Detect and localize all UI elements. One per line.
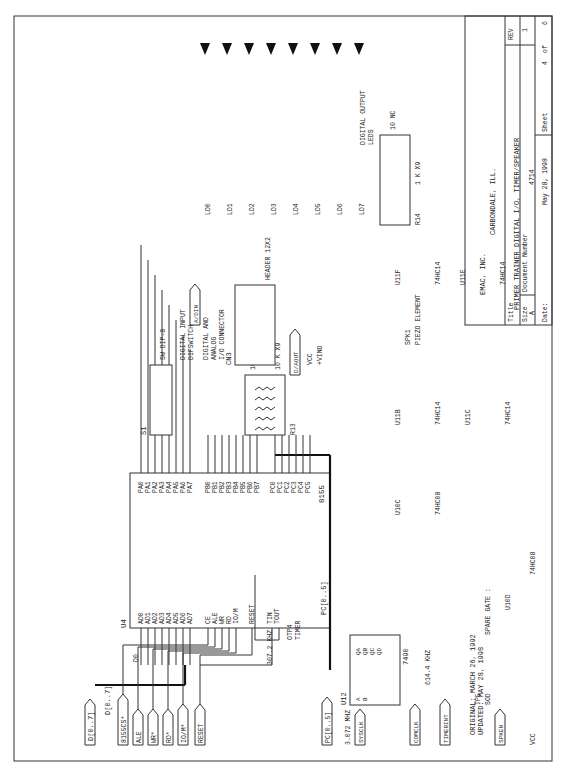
svg-text:PA2: PA2 xyxy=(152,481,159,493)
svg-text:AD7: AD7 xyxy=(187,612,194,624)
svg-text:LD6: LD6 xyxy=(337,203,344,215)
svg-text:TOUT: TOUT xyxy=(274,608,281,624)
svg-text:Document Number: Document Number xyxy=(522,233,529,292)
svg-text:+VINO: +VINO xyxy=(317,345,324,365)
svg-text:PC[0..5]: PC[0..5] xyxy=(320,581,328,615)
svg-text:10 K X9: 10 K X9 xyxy=(275,343,282,370)
original-date-note: ORIGINAL: MARCH 26, 1992 xyxy=(469,634,477,735)
svg-text:IO/M: IO/M xyxy=(233,608,240,624)
svg-text:U10D: U10D xyxy=(505,594,512,610)
svg-text:PRIMER TRAINER DIGITAL I/O, TI: PRIMER TRAINER DIGITAL I/O, TIMER/SPEAKE… xyxy=(513,137,521,310)
svg-text:AD0: AD0 xyxy=(138,612,145,624)
svg-text:10 NC: 10 NC xyxy=(390,110,397,130)
r14-resistor-network: R14 1 K X9 10 NC xyxy=(380,110,422,225)
svg-text:PA4: PA4 xyxy=(166,481,173,493)
svg-text:Sheet: Sheet xyxy=(542,112,549,132)
led-array: LD0 LD1 LD2 LD3 LD4 LD5 LD6 LD7 DIGITAL … xyxy=(200,43,375,215)
svg-text:1 K X9: 1 K X9 xyxy=(415,161,422,185)
svg-text:SYSCLK: SYSCLK xyxy=(358,721,365,743)
svg-text:HEADER 12X2: HEADER 12X2 xyxy=(265,237,272,280)
svg-text:PA5: PA5 xyxy=(173,481,180,493)
svg-text:DIGITAL OUTPUT: DIGITAL OUTPUT xyxy=(360,90,367,145)
svg-text:PC5: PC5 xyxy=(305,481,312,493)
svg-text:RESET: RESET xyxy=(198,723,205,743)
svg-text:CE: CE xyxy=(205,616,212,624)
svg-text:6: 6 xyxy=(542,21,549,25)
svg-text:LD5: LD5 xyxy=(315,203,322,215)
svg-text:DIPSWITCH: DIPSWITCH xyxy=(188,325,195,360)
svg-text:LEDS: LEDS xyxy=(368,129,375,145)
port-d-bus: D[0..7] xyxy=(85,699,95,745)
svg-text:CARBONDALE, ILL.: CARBONDALE, ILL. xyxy=(489,168,497,235)
svg-text:DIGITAL INPUT: DIGITAL INPUT xyxy=(180,309,187,360)
svg-text:QC: QC xyxy=(369,647,376,655)
svg-text:OTP4: OTP4 xyxy=(287,624,294,640)
svg-text:LD7: LD7 xyxy=(359,203,366,215)
u4-8155-chip: U4 8155 AD0AD1 AD2AD3 AD4AD5 AD6AD7 CEAL… xyxy=(120,245,330,628)
svg-text:May 28, 1998: May 28, 1998 xyxy=(542,158,549,205)
svg-text:PB4: PB4 xyxy=(233,481,240,493)
title-block: EMAC, INC. CARBONDALE, ILL. Title PRIMER… xyxy=(465,16,552,325)
svg-text:74HC14: 74HC14 xyxy=(435,261,442,285)
svg-text:AD4: AD4 xyxy=(166,612,173,624)
svg-text:D/AOUT: D/AOUT xyxy=(293,351,300,373)
svg-text:R13: R13 xyxy=(290,423,297,435)
svg-text:LD2: LD2 xyxy=(249,203,256,215)
svg-text:SPK1: SPK1 xyxy=(405,329,412,345)
svg-text:U11C: U11C xyxy=(465,409,472,425)
svg-text:A: A xyxy=(529,311,536,315)
svg-text:AD2: AD2 xyxy=(152,612,159,624)
svg-text:ANALOG: ANALOG xyxy=(211,336,218,360)
svg-text:74HC14: 74HC14 xyxy=(505,401,512,425)
svg-text:AD6: AD6 xyxy=(180,612,187,624)
schematic-sheet: U4 8155 AD0AD1 AD2AD3 AD4AD5 AD6AD7 CEAL… xyxy=(10,10,560,765)
svg-text:PB3: PB3 xyxy=(226,481,233,493)
svg-text:U11E: U11E xyxy=(460,269,467,285)
svg-text:PA0: PA0 xyxy=(138,481,145,493)
svg-text:S1: S1 xyxy=(140,427,148,435)
svg-text:3.072 MHZ: 3.072 MHZ xyxy=(345,710,352,745)
svg-text:D[0..7]: D[0..7] xyxy=(104,686,112,715)
svg-text:CN3: CN3 xyxy=(225,352,233,365)
svg-text:U10C: U10C xyxy=(395,499,402,515)
svg-text:PIEZO ELEMENT: PIEZO ELEMENT xyxy=(415,294,422,345)
u4-part: 8155 xyxy=(318,484,326,503)
svg-text:PB1: PB1 xyxy=(212,481,219,493)
svg-text:D0: D0 xyxy=(133,654,140,662)
svg-text:IO/M*: IO/M* xyxy=(181,723,188,743)
svg-text:LD1: LD1 xyxy=(227,203,234,215)
svg-text:PA7: PA7 xyxy=(187,481,194,493)
svg-text:SOD: SOD xyxy=(485,693,492,705)
svg-text:PB5: PB5 xyxy=(240,481,247,493)
port-cs: 8155CS* xyxy=(121,716,128,743)
svg-text:LD4: LD4 xyxy=(293,203,300,215)
svg-text:U12: U12 xyxy=(340,692,348,705)
svg-text:PB7: PB7 xyxy=(254,481,261,493)
u12-7490-chip: U12 7490 A B QA QB QC QD SYSCLK 3.072 MH… xyxy=(340,635,450,745)
svg-text:PC4: PC4 xyxy=(298,481,305,493)
svg-text:PC3: PC3 xyxy=(291,481,298,493)
svg-text:SPARE GATE :: SPARE GATE : xyxy=(485,588,492,635)
svg-text:A/DIN: A/DIN xyxy=(193,305,200,323)
speaker-circuit: U10C 74HC08 U11B 74HC14 U11C 74HC14 U11F… xyxy=(395,261,537,745)
svg-text:614.4 KHZ: 614.4 KHZ xyxy=(425,650,432,685)
svg-text:PC0: PC0 xyxy=(270,481,277,493)
svg-text:PC[0..5]: PC[0..5] xyxy=(325,712,332,743)
svg-text:REV: REV xyxy=(508,28,515,40)
svg-text:74HC14: 74HC14 xyxy=(435,401,442,425)
svg-text:VCC: VCC xyxy=(307,353,314,365)
svg-text:PC2: PC2 xyxy=(284,481,291,493)
svg-text:D[0..7]: D[0..7] xyxy=(87,712,95,741)
svg-text:ALE: ALE xyxy=(212,612,219,624)
svg-text:A: A xyxy=(355,697,362,701)
svg-text:PA6: PA6 xyxy=(180,481,187,493)
svg-text:Date:: Date: xyxy=(542,302,549,322)
svg-text:COMCLK: COMCLK xyxy=(413,721,420,743)
svg-text:PA3: PA3 xyxy=(159,481,166,493)
svg-text:EMAC, INC.: EMAC, INC. xyxy=(479,253,487,295)
svg-text:RD*: RD* xyxy=(166,731,173,743)
svg-text:74HC08: 74HC08 xyxy=(435,491,442,515)
svg-text:PB6: PB6 xyxy=(247,481,254,493)
svg-text:LD0: LD0 xyxy=(205,203,212,215)
svg-text:7490: 7490 xyxy=(402,648,410,665)
